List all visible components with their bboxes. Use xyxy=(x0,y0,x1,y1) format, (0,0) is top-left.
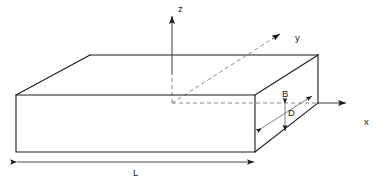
d-dimension-label: D xyxy=(288,107,295,118)
z-axis-label: z xyxy=(178,3,183,14)
l-dimension-label: L xyxy=(133,167,138,178)
x-axis-label: x xyxy=(364,116,369,127)
y-axis-label: y xyxy=(295,32,300,43)
diagram-canvas: z y x B D L xyxy=(0,0,380,182)
y-axis-arrow xyxy=(272,34,280,39)
b-dimension-label: B xyxy=(282,88,288,99)
slab-front-face xyxy=(16,95,255,152)
slab-figure: z y x B D L xyxy=(0,0,380,182)
